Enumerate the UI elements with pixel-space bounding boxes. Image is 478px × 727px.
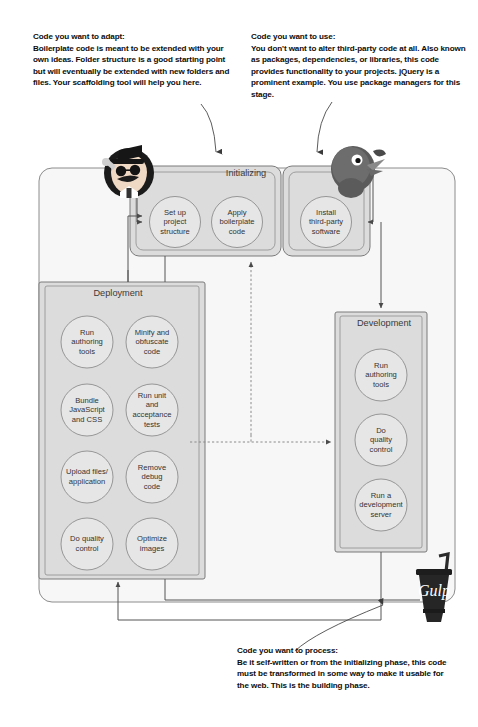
node-run-authoring-tools-dev[interactable] (355, 349, 407, 401)
node-install-third-party-software[interactable] (301, 197, 352, 248)
section-title-deployment: Deployment (68, 288, 168, 298)
callout-code-you-want-to-process: Code you want to process: Be it self-wri… (237, 645, 452, 691)
section-title-initializing: Initializing (196, 168, 296, 178)
callout-title: Code you want to adapt: (33, 31, 233, 43)
node-upload-files-application[interactable] (61, 451, 113, 503)
callout-code-you-want-to-use: Code you want to use: You don't want to … (251, 31, 466, 101)
node-optimize-images[interactable] (126, 518, 178, 570)
callout-body: You don't want to alter third-party code… (251, 43, 466, 101)
section-development[interactable] (335, 312, 427, 552)
section-title-development: Development (334, 318, 434, 328)
node-do-quality-control[interactable] (61, 518, 113, 570)
callout-title: Code you want to process: (237, 645, 452, 657)
node-run-unit-and-acceptance-tests[interactable] (126, 384, 178, 436)
callout-body: Boilerplate code is meant to be extended… (33, 43, 233, 89)
svg-text:Gulp: Gulp (418, 582, 450, 600)
bower-mascot-icon (327, 143, 389, 199)
node-bundle-javascript-and-css[interactable] (61, 384, 113, 436)
callout-body: Be it self-written or from the initializ… (237, 657, 452, 692)
node-remove-debug-code[interactable] (126, 451, 178, 503)
node-set-up-project-structure[interactable] (150, 197, 201, 248)
node-minify-and-obfuscate-code[interactable] (126, 316, 178, 368)
callout-code-you-want-to-adapt: Code you want to adapt: Boilerplate code… (33, 31, 233, 89)
yeoman-mascot-icon (100, 142, 158, 200)
section-deployment[interactable] (39, 282, 205, 579)
node-run-authoring-tools[interactable] (61, 316, 113, 368)
node-apply-boilerplate-code[interactable] (212, 197, 263, 248)
node-run-a-development-server[interactable] (355, 479, 407, 531)
callout-arrow-adapt (201, 104, 216, 152)
node-do-quality-control-dev[interactable] (355, 414, 407, 466)
callout-title: Code you want to use: (251, 31, 466, 43)
gulp-cup-logo: Gulp (406, 552, 462, 624)
